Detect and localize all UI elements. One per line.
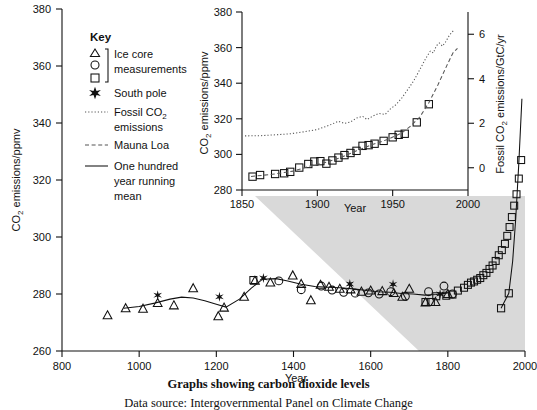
data-point-triangle <box>103 311 112 319</box>
x-tick-label: 800 <box>53 360 71 372</box>
inset-y-tick-label: 380 <box>214 6 232 18</box>
inset-y-tick-label: 300 <box>214 148 232 160</box>
x-tick-label: 1200 <box>204 360 228 372</box>
figure-container: 260280300320340360380 800100012001400160… <box>0 0 537 410</box>
inset-x-tick-label: 1850 <box>230 198 254 210</box>
legend-label-fossil-2: emissions <box>114 121 163 133</box>
triangle-icon <box>90 49 99 57</box>
figure-caption-source: Data source: Intergovernmental Panel on … <box>0 396 537 410</box>
inset-x-axis-label: Year <box>344 202 367 214</box>
data-point-square <box>515 175 522 182</box>
inset-y-tick-label: 360 <box>214 42 232 54</box>
y-tick-label: 260 <box>33 345 51 357</box>
star-icon <box>89 87 101 99</box>
y-tick-label: 320 <box>33 174 51 186</box>
x-tick-label: 1800 <box>436 360 460 372</box>
main-y-axis-label: CO2 emissions/ppmv <box>10 128 25 231</box>
data-point-triangle <box>240 292 249 300</box>
y-tick-label: 360 <box>33 60 51 72</box>
y-tick-label: 340 <box>33 117 51 129</box>
x-tick-label: 1000 <box>127 360 151 372</box>
legend-label-ice-core-1: Ice core <box>114 48 153 60</box>
legend-label-south-pole: South pole <box>114 87 167 99</box>
figure-caption-title: Graphs showing carbon dioxide levels <box>0 377 537 392</box>
y-tick-label: 300 <box>33 231 51 243</box>
inset-y-axis-label: CO2 emissions/ppmv <box>198 51 213 154</box>
data-point-star <box>153 290 162 300</box>
circle-icon <box>91 61 99 69</box>
legend-label-mauna-loa: Mauna Loa <box>114 139 170 151</box>
inset-y-tick-label: 280 <box>214 184 232 196</box>
x-tick-label: 1600 <box>358 360 382 372</box>
inset-x-tick-label: 1900 <box>305 198 329 210</box>
bracket-icon <box>105 49 108 82</box>
inset-y2-tick-label: 6 <box>479 28 485 40</box>
data-point-triangle <box>220 303 229 311</box>
inset-x-tick-label: 1950 <box>380 198 404 210</box>
inset-x-tick-label: 2000 <box>456 198 480 210</box>
main-x-ticks: 800100012001400160018002000 <box>53 351 537 372</box>
inset-background <box>230 6 480 196</box>
x-tick-label: 1400 <box>281 360 305 372</box>
data-point-triangle <box>214 312 223 320</box>
inset-y2-tick-label: 0 <box>479 162 485 174</box>
legend-label-ice-core-2: measurements <box>114 63 187 75</box>
inset-y-tick-label: 320 <box>214 113 232 125</box>
inset-y-tick-label: 340 <box>214 77 232 89</box>
legend-label-fossil-1: Fossil CO2 <box>114 106 167 121</box>
legend-title: Key <box>90 31 112 43</box>
inset-y2-axis-label: Fossil CO2 emissions/GtC/yr <box>494 34 509 174</box>
y-tick-label: 280 <box>33 288 51 300</box>
square-icon <box>91 74 99 82</box>
data-point-star <box>215 292 224 302</box>
main-y-ticks: 260280300320340360380 <box>33 3 62 357</box>
inset-y2-tick-label: 4 <box>479 73 485 85</box>
legend-label-running-2: year running <box>114 175 175 187</box>
data-point-triangle <box>306 296 315 304</box>
data-point-triangle <box>170 301 179 309</box>
zoom-cone <box>255 196 525 351</box>
inset-y2-tick-label: 2 <box>479 117 485 129</box>
legend: Key Ice core measurements South pole Fos… <box>85 31 187 202</box>
legend-label-running-1: One hundred <box>114 160 178 172</box>
co2-figure-svg: 260280300320340360380 800100012001400160… <box>0 0 537 410</box>
y-tick-label: 380 <box>33 3 51 15</box>
data-point-triangle <box>189 284 198 292</box>
x-tick-label: 2000 <box>513 360 537 372</box>
legend-label-running-3: mean <box>114 190 142 202</box>
data-point-triangle <box>288 271 297 279</box>
inset-chart: 280300320340360380 1850190019502000 0246… <box>198 6 509 214</box>
